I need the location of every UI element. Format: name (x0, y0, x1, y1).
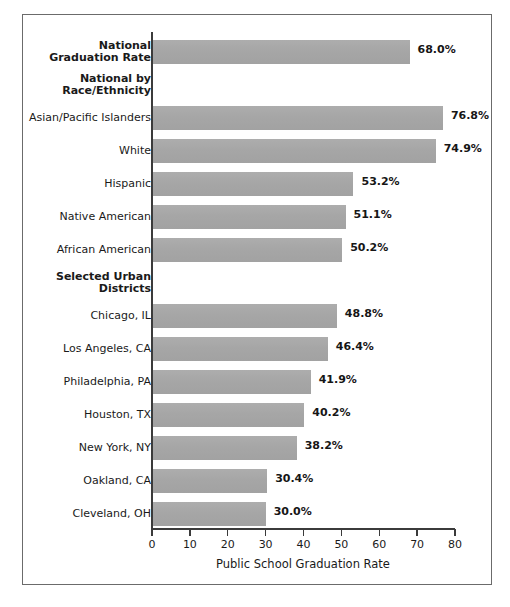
category-label: Cleveland, OH (11, 508, 151, 521)
x-tick (416, 529, 417, 536)
chart-row: Philadelphia, PA41.9% (0, 369, 510, 395)
bar-value-label: 68.0% (418, 43, 456, 56)
x-axis-title: Public School Graduation Rate (151, 557, 455, 571)
category-label: Philadelphia, PA (11, 376, 151, 389)
bar (152, 469, 267, 493)
bar (152, 370, 311, 394)
category-label: Asian/Pacific Islanders (11, 112, 151, 125)
x-tick-label: 80 (435, 538, 475, 551)
bar (152, 304, 337, 328)
bar (152, 436, 297, 460)
category-label: Chicago, IL (11, 310, 151, 323)
category-label: New York, NY (11, 442, 151, 455)
category-label: Los Angeles, CA (11, 343, 151, 356)
x-tick-label: 60 (359, 538, 399, 551)
chart-row: New York, NY38.2% (0, 435, 510, 461)
bar (152, 238, 342, 262)
bar (152, 139, 436, 163)
x-tick (341, 529, 342, 536)
bar (152, 205, 346, 229)
chart-row: National Graduation Rate68.0% (0, 39, 510, 65)
bar (152, 403, 304, 427)
section-header-label: Selected Urban Districts (11, 271, 151, 296)
chart-row: Hispanic53.2% (0, 171, 510, 197)
category-label: Houston, TX (11, 409, 151, 422)
bar-value-label: 76.8% (451, 109, 489, 122)
category-label: African American (11, 244, 151, 257)
x-tick-label: 70 (397, 538, 437, 551)
bar-value-label: 46.4% (336, 340, 374, 353)
bar-value-label: 38.2% (305, 439, 343, 452)
bar (152, 40, 410, 64)
chart-row: African American50.2% (0, 237, 510, 263)
chart-row: Asian/Pacific Islanders76.8% (0, 105, 510, 131)
x-tick (303, 529, 304, 536)
bar-value-label: 40.2% (312, 406, 350, 419)
chart-row: Houston, TX40.2% (0, 402, 510, 428)
chart-row: Chicago, IL48.8% (0, 303, 510, 329)
chart-row: Selected Urban Districts (0, 270, 510, 296)
bar (152, 172, 353, 196)
section-header-label: National Graduation Rate (11, 40, 151, 65)
x-tick (265, 529, 266, 536)
chart-row: Native American51.1% (0, 204, 510, 230)
x-tick-label: 0 (132, 538, 172, 551)
chart-row: Oakland, CA30.4% (0, 468, 510, 494)
category-label: Native American (11, 211, 151, 224)
bar (152, 502, 266, 526)
x-tick-label: 10 (170, 538, 210, 551)
bar-value-label: 50.2% (350, 241, 388, 254)
y-axis-line (151, 32, 153, 529)
chart-row: Cleveland, OH30.0% (0, 501, 510, 527)
chart-plot-area: National Graduation Rate68.0%National by… (0, 0, 510, 607)
chart-row: White74.9% (0, 138, 510, 164)
x-tick (454, 529, 455, 536)
bar-value-label: 48.8% (345, 307, 383, 320)
category-label: Hispanic (11, 178, 151, 191)
category-label: White (11, 145, 151, 158)
x-tick (227, 529, 228, 536)
x-tick-label: 50 (321, 538, 361, 551)
bar-value-label: 51.1% (354, 208, 392, 221)
bar-value-label: 30.0% (274, 505, 312, 518)
bar (152, 337, 328, 361)
x-tick-label: 20 (208, 538, 248, 551)
x-tick (151, 529, 152, 536)
chart-row: National by Race/Ethnicity (0, 72, 510, 98)
x-tick-label: 40 (284, 538, 324, 551)
bar-value-label: 30.4% (275, 472, 313, 485)
bar-value-label: 74.9% (444, 142, 482, 155)
category-label: Oakland, CA (11, 475, 151, 488)
bar (152, 106, 443, 130)
chart-row: Los Angeles, CA46.4% (0, 336, 510, 362)
bar-value-label: 41.9% (319, 373, 357, 386)
x-tick-label: 30 (246, 538, 286, 551)
bar-value-label: 53.2% (361, 175, 399, 188)
x-tick (189, 529, 190, 536)
section-header-label: National by Race/Ethnicity (11, 73, 151, 98)
x-tick (379, 529, 380, 536)
